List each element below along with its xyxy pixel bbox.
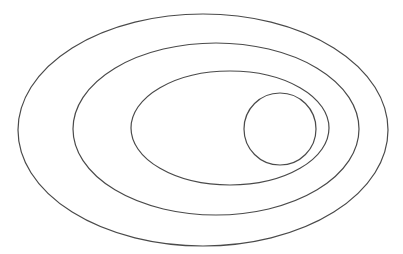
third-ellipse — [131, 71, 329, 185]
inner-circle — [244, 93, 316, 165]
nested-ellipses-diagram — [0, 0, 403, 254]
